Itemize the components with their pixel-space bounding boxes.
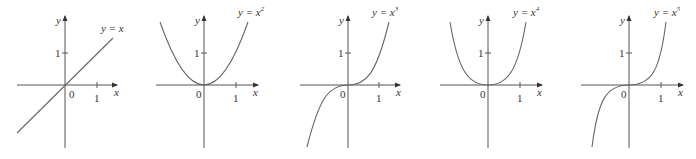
graph-y-equals-x-fourth: y x 0 1 1 y = x4 (440, 5, 542, 148)
x-axis-label: x (677, 86, 683, 98)
y-tick-label: 1 (194, 47, 200, 59)
origin-label: 0 (340, 88, 346, 100)
graph-y-equals-x-fifth: y x 0 1 1 y = x5 (581, 5, 683, 148)
x-axis-label: x (252, 86, 258, 98)
y-axis-label: y (338, 14, 344, 26)
y-tick-label: 1 (338, 47, 344, 59)
x-axis-label: x (536, 86, 542, 98)
x-tick-label: 1 (94, 92, 100, 104)
graph-y-equals-x: y x 0 1 1 y = x (17, 14, 124, 148)
y-tick-label: 1 (619, 47, 625, 59)
y-axis-label: y (55, 14, 61, 26)
x-tick-label: 1 (233, 92, 239, 104)
graph-y-equals-x-cubed: y x 0 1 1 y = x3 (300, 5, 401, 148)
equation-label: y = x (100, 22, 124, 34)
equation-label: y = x4 (512, 5, 540, 18)
origin-label: 0 (69, 88, 75, 100)
x-tick-label: 1 (376, 92, 382, 104)
origin-label: 0 (480, 88, 486, 100)
y-tick-label: 1 (55, 47, 61, 59)
origin-label: 0 (621, 88, 627, 100)
y-tick-label: 1 (478, 47, 484, 59)
x-axis-label: x (113, 86, 119, 98)
graph-y-equals-x-squared: y x 0 1 1 y = x2 (156, 5, 265, 148)
equation-label: y = x3 (371, 5, 399, 18)
x-tick-label: 1 (658, 92, 664, 104)
origin-label: 0 (196, 88, 202, 100)
power-function-graphs: y x 0 1 1 y = x y x 0 1 1 y = x2 y x 0 1… (0, 0, 696, 159)
equation-label: y = x5 (653, 5, 681, 18)
y-axis-label: y (619, 14, 625, 26)
x-tick-label: 1 (517, 92, 523, 104)
x-axis-label: x (395, 86, 401, 98)
y-axis-label: y (194, 14, 200, 26)
equation-label: y = x2 (237, 5, 265, 18)
y-axis-label: y (478, 14, 484, 26)
